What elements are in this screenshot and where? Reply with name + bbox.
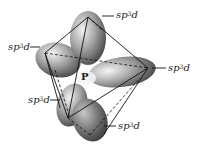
orbital-label-lower-left: sp3d: [28, 95, 50, 105]
label-tail: d: [183, 62, 189, 73]
label-sup: 3: [180, 63, 184, 70]
sp3d-orbital-diagram: [0, 0, 198, 150]
orbital-label-right: sp3d: [168, 63, 190, 73]
orbital-label-left: sp3d: [8, 42, 30, 52]
orbital-label-top: sp3d: [116, 10, 138, 20]
label-sup: 3: [40, 95, 44, 102]
label-base: sp: [8, 41, 20, 52]
label-sup: 3: [20, 42, 24, 49]
orbital-label-bottom: sp3d: [118, 121, 140, 131]
label-sup: 3: [130, 121, 134, 128]
label-sup: 3: [128, 10, 132, 17]
label-base: sp: [168, 62, 180, 73]
label-base: sp: [116, 9, 128, 20]
label-tail: d: [43, 94, 49, 105]
label-tail: d: [131, 9, 137, 20]
label-base: sp: [28, 94, 40, 105]
label-tail: d: [23, 41, 29, 52]
center-atom-label: P: [81, 71, 89, 82]
label-base: sp: [118, 120, 130, 131]
label-tail: d: [133, 120, 139, 131]
